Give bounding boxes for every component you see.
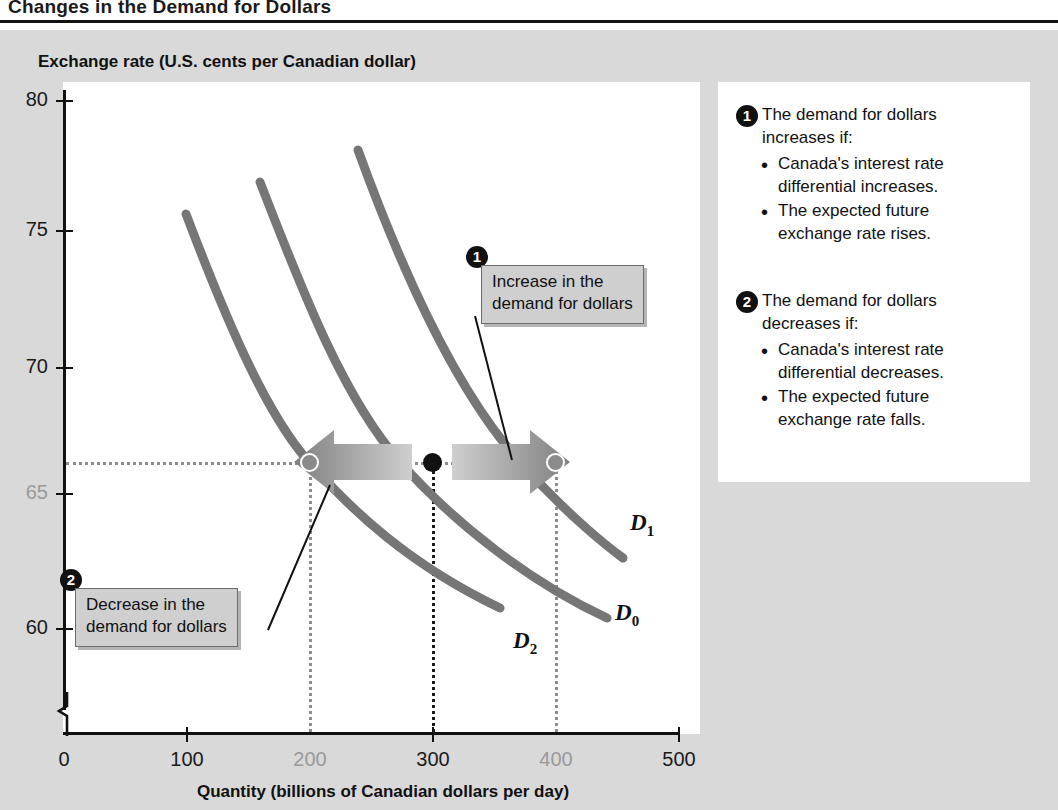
decrease-callout: Decrease in the demand for dollars xyxy=(75,588,238,647)
y-tick-label-75: 75 xyxy=(8,218,48,241)
y-tick-80 xyxy=(56,100,73,102)
increase-callout-line1: Increase in the xyxy=(492,271,633,293)
x-tick-500 xyxy=(678,727,680,742)
legend-item-1-bullet-2: The expected future exchange rate rises. xyxy=(778,200,1014,245)
y-axis-title: Exchange rate (U.S. cents per Canadian d… xyxy=(38,52,416,72)
reference-line-400 xyxy=(555,464,558,732)
legend-item-2-bullets: Canada's interest rate differential decr… xyxy=(736,339,1014,431)
legend-item-1-heading-line1: The demand for dollars xyxy=(762,104,1014,127)
x-tick-label-300: 300 xyxy=(403,748,463,771)
y-tick-label-70: 70 xyxy=(8,355,48,378)
reference-line-200 xyxy=(309,464,312,732)
decrease-callout-line1: Decrease in the xyxy=(86,594,227,616)
legend-item-2-bullet-1: Canada's interest rate differential decr… xyxy=(778,339,1014,384)
y-axis-line xyxy=(63,90,66,710)
legend-item-2-heading-line2: decreases if: xyxy=(762,313,1014,336)
x-tick-label-200: 200 xyxy=(280,748,340,771)
x-tick-label-500: 500 xyxy=(649,748,709,771)
y-tick-65 xyxy=(56,493,73,495)
legend-item-1-heading: 1 The demand for dollars increases if: xyxy=(736,104,1014,149)
legend-item-1-heading-line2: increases if: xyxy=(762,127,1014,150)
title-divider xyxy=(0,20,1058,23)
axis-break-icon xyxy=(53,692,77,736)
legend-badge-1: 1 xyxy=(736,105,758,127)
legend-item-2-heading-line1: The demand for dollars xyxy=(762,290,1014,313)
reference-line-300 xyxy=(432,464,435,732)
y-tick-70 xyxy=(56,367,73,369)
decrease-callout-line2: demand for dollars xyxy=(86,616,227,638)
y-tick-label-60: 60 xyxy=(8,616,48,639)
y-tick-label-80: 80 xyxy=(8,88,48,111)
legend-item-2-bullet-2: The expected future exchange rate falls. xyxy=(778,386,1014,431)
legend-item-2: 2 The demand for dollars decreases if: C… xyxy=(736,290,1014,434)
x-axis-title: Quantity (billions of Canadian dollars p… xyxy=(63,782,703,802)
legend-badge-2: 2 xyxy=(736,291,758,313)
equilibrium-point-d2 xyxy=(300,453,319,472)
legend-item-1-bullet-1: Canada's interest rate differential incr… xyxy=(778,153,1014,198)
x-tick-label-400: 400 xyxy=(526,748,586,771)
legend-item-1-bullets: Canada's interest rate differential incr… xyxy=(736,153,1014,245)
figure-title: Changes in the Demand for Dollars xyxy=(0,0,1058,18)
equilibrium-point-d1 xyxy=(546,453,565,472)
figure-panel: Exchange rate (U.S. cents per Canadian d… xyxy=(0,30,1058,810)
x-axis-line xyxy=(63,732,680,735)
x-tick-100 xyxy=(186,727,188,742)
increase-callout-line2: demand for dollars xyxy=(492,293,633,315)
curve-label-d1: D1 xyxy=(630,510,654,540)
equilibrium-point-d0 xyxy=(423,453,442,472)
legend-item-1: 1 The demand for dollars increases if: C… xyxy=(736,104,1014,248)
y-tick-60 xyxy=(56,628,73,630)
legend-panel: 1 The demand for dollars increases if: C… xyxy=(718,82,1030,482)
y-tick-label-65: 65 xyxy=(8,481,48,504)
curve-label-d0: D0 xyxy=(615,600,639,630)
x-tick-label-0: 0 xyxy=(34,748,94,771)
legend-item-2-heading: 2 The demand for dollars decreases if: xyxy=(736,290,1014,335)
x-tick-label-100: 100 xyxy=(157,748,217,771)
y-tick-75 xyxy=(56,230,73,232)
increase-callout: Increase in the demand for dollars xyxy=(481,265,644,324)
curve-label-d2: D2 xyxy=(513,628,537,658)
